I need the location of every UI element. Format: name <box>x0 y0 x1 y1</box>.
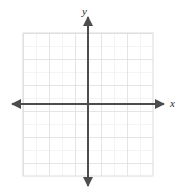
y-axis-label: y <box>82 6 87 17</box>
graph-canvas <box>0 0 189 193</box>
x-axis-label: x <box>170 98 175 109</box>
coordinate-plane-figure: y x <box>0 0 189 193</box>
